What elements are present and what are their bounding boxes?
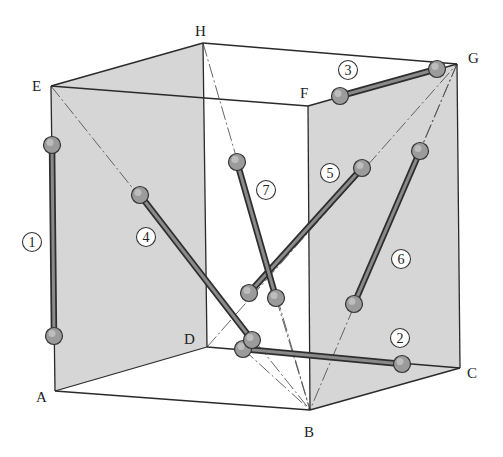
- ball-highlight: [432, 63, 439, 70]
- ball-highlight: [349, 298, 356, 305]
- ball-highlight: [244, 287, 251, 294]
- ball-highlight: [415, 145, 422, 152]
- diagonal-bar2-B: [243, 349, 310, 410]
- vertex-label-G: G: [468, 50, 479, 66]
- vertex-label-H: H: [195, 23, 206, 39]
- cube-diagram: ABCDEFGH 1234567: [0, 0, 503, 457]
- ball-highlight: [47, 139, 54, 146]
- bar-number: 1: [29, 235, 36, 250]
- bar-number: 6: [398, 252, 405, 267]
- bar-number: 4: [143, 230, 150, 245]
- bar-label-1: 1: [23, 233, 42, 252]
- edge-HG: [203, 43, 457, 64]
- bar-number: 5: [327, 166, 334, 181]
- ball-highlight: [232, 156, 239, 163]
- bar-1-rod: [52, 145, 54, 336]
- ball-highlight: [238, 343, 245, 350]
- bar-label-7: 7: [257, 181, 276, 200]
- bar-number: 7: [263, 183, 270, 198]
- vertex-label-E: E: [32, 78, 41, 94]
- bar-number: 2: [397, 331, 404, 346]
- ball-highlight: [247, 334, 254, 341]
- bar-label-2: 2: [391, 329, 410, 348]
- bar-label-6: 6: [392, 250, 411, 269]
- bar-label-3: 3: [339, 61, 358, 80]
- vertex-label-D: D: [184, 331, 195, 347]
- vertex-label-F: F: [300, 85, 308, 101]
- ball-highlight: [49, 330, 56, 337]
- vertex-label-A: A: [36, 389, 47, 405]
- ball-highlight: [357, 162, 364, 169]
- vertex-label-C: C: [467, 365, 477, 381]
- ball-highlight: [135, 189, 142, 196]
- ball-highlight: [271, 292, 278, 299]
- bar-label-4: 4: [137, 228, 156, 247]
- ball-highlight: [335, 90, 342, 97]
- ball-highlight: [397, 358, 404, 365]
- edge-AB: [55, 391, 310, 410]
- bar-number: 3: [345, 63, 352, 78]
- vertex-label-B: B: [304, 424, 314, 440]
- bar-label-5: 5: [321, 164, 340, 183]
- cube-diagram-canvas: ABCDEFGH 1234567: [0, 0, 503, 457]
